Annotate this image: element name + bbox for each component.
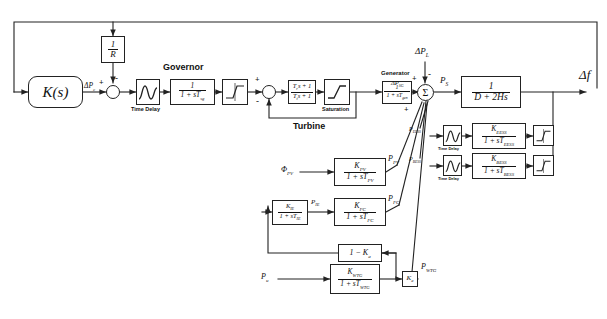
wire-pv-out [386, 165, 397, 172]
pv-block[interactable]: KPV 1 + sTPV [334, 158, 386, 186]
turbine-block[interactable]: Trs + 1 Tts + 1 [288, 80, 316, 104]
controller-block[interactable]: K(s) [28, 76, 83, 108]
delta-pc-label: ΔPc [84, 82, 95, 92]
sum1-plus-sign: + [99, 79, 104, 87]
p-bess-label: PBESS [409, 156, 421, 165]
ps-label: PS [440, 76, 448, 87]
bess-block[interactable]: KBESS 1 + sTBESS [472, 153, 526, 179]
one-minus-ka-gain-block[interactable]: 1 − Ka [338, 244, 382, 262]
eess-limiter-block[interactable] [533, 125, 554, 146]
electrolyzer-block[interactable]: KIE 1 + sTIE [272, 200, 308, 225]
governor-caption: Governor [163, 63, 204, 72]
droop-gain-block[interactable]: 1 R [101, 36, 125, 63]
eess-time-delay-block[interactable] [443, 125, 462, 146]
delta-pl-label: ΔPL [415, 47, 429, 58]
limiter-icon [535, 158, 552, 174]
limiter-icon [535, 128, 552, 144]
sum3-plus-sign-lower: + [404, 106, 409, 114]
bess-limiter-block[interactable] [533, 155, 554, 176]
fuel-cell-block[interactable]: KFC 1 + sTFC [334, 198, 386, 226]
saturation-icon [326, 82, 348, 102]
wire-fc-out [386, 205, 399, 212]
eess-block[interactable]: KEESS 1 + sTEESS [472, 123, 526, 149]
power-balance-summing-junction[interactable]: Σ [417, 84, 434, 101]
sum3-plus-sign: + [412, 75, 417, 83]
governor-limiter-block[interactable] [222, 79, 248, 105]
p-wtg-label: PWTG [421, 263, 436, 274]
ka-gain-block[interactable]: Ka [402, 271, 418, 287]
eess-time-delay-caption: Time Delay [438, 147, 459, 151]
turbine-caption: Turbine [293, 122, 325, 131]
bess-time-delay-caption: Time Delay [438, 177, 459, 181]
p-ie-label: PIE [311, 199, 319, 208]
sum2-minus-sign: - [256, 97, 259, 106]
governor-time-delay-block[interactable] [136, 79, 160, 105]
governor-summing-junction[interactable] [106, 85, 120, 99]
delta-f-label: Δf [579, 68, 590, 81]
p-eess-label: PEESS [409, 126, 421, 135]
limiter-icon [224, 82, 246, 102]
delta-psg-label: ΔPSG [391, 80, 404, 88]
sum1-minus-sign: - [115, 74, 118, 83]
p-fc-label: PFC [388, 195, 399, 206]
time-delay-icon [445, 128, 461, 144]
phi-pv-label: ΦPV [281, 166, 293, 177]
turbine-summing-junction[interactable] [262, 85, 276, 99]
time-delay-icon [445, 158, 461, 174]
generator-caption: Generator [381, 70, 410, 76]
saturation-block[interactable] [324, 79, 350, 105]
time-delay-icon [138, 82, 158, 102]
p-pv-label: PPV [388, 155, 399, 166]
power-system-block[interactable]: 1 D + 2Hs [461, 76, 521, 108]
wtg-block[interactable]: KWTG 1 + sTWTG [330, 264, 380, 294]
sum3-minus-sign: - [428, 70, 431, 79]
p-u-label: Pu [261, 273, 268, 284]
saturation-caption: Saturation [322, 107, 349, 113]
bess-time-delay-block[interactable] [443, 155, 462, 176]
sum2-plus-sign: + [255, 76, 260, 84]
governor-time-delay-caption: Time Delay [131, 107, 160, 113]
governor-block[interactable]: 1 1 + sTsg [170, 79, 215, 105]
